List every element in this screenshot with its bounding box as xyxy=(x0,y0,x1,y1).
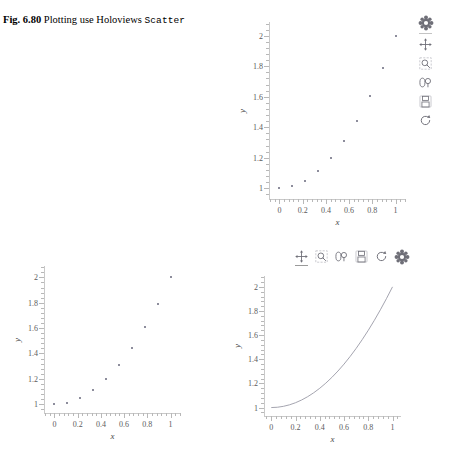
scatter-point xyxy=(92,389,94,391)
x-tick-minor xyxy=(133,413,134,416)
wheel-zoom-tool-icon[interactable] xyxy=(333,248,350,265)
x-tick-minor xyxy=(64,413,65,416)
x-tick-minor xyxy=(270,199,271,202)
x-tick-minor xyxy=(138,413,139,416)
y-tick-minor xyxy=(266,48,269,49)
scatter-point xyxy=(118,364,120,366)
x-tick-label: 0 xyxy=(277,206,281,215)
y-tick-minor xyxy=(266,72,269,73)
plot-scatter-top[interactable]: 11.21.41.61.8200.20.40.60.81xy xyxy=(237,14,412,229)
x-tick-minor xyxy=(400,199,401,202)
x-tick-major xyxy=(372,199,373,204)
x-tick-minor xyxy=(73,413,74,416)
pan-tool-icon[interactable] xyxy=(293,248,310,265)
save-tool-icon[interactable] xyxy=(417,93,434,110)
x-tick-minor xyxy=(317,199,318,202)
scatter-point xyxy=(343,140,345,142)
y-tick-minor xyxy=(41,318,44,319)
y-tick-major xyxy=(39,379,44,380)
y-tick-label: 1.6 xyxy=(18,324,38,333)
y-tick-major xyxy=(264,158,269,159)
x-tick-minor xyxy=(180,413,181,416)
x-tick-major xyxy=(54,413,55,418)
y-tick-minor xyxy=(266,24,269,25)
box-zoom-tool-icon[interactable] xyxy=(417,55,434,72)
wheel-zoom-tool-icon[interactable] xyxy=(417,74,434,91)
x-tick-minor xyxy=(331,199,332,202)
x-tick-minor xyxy=(293,199,294,202)
y-tick-minor xyxy=(266,146,269,147)
y-tick-label: 1.2 xyxy=(243,153,263,162)
y-tick-minor xyxy=(266,42,269,43)
x-tick-minor xyxy=(284,199,285,202)
x-tick-major xyxy=(147,413,148,418)
y-tick-minor xyxy=(266,139,269,140)
x-tick-major xyxy=(303,199,304,204)
y-tick-label: 1.8 xyxy=(243,62,263,71)
x-tick-minor xyxy=(391,199,392,202)
y-tick-minor xyxy=(41,338,44,339)
y-tick-label: 1 xyxy=(18,400,38,409)
y-tick-major xyxy=(39,303,44,304)
x-tick-major xyxy=(326,199,327,204)
bokeh-logo-icon[interactable] xyxy=(393,248,410,265)
reset-tool-icon[interactable] xyxy=(417,112,434,129)
y-tick-minor xyxy=(41,282,44,283)
x-tick-minor xyxy=(354,199,355,202)
y-tick-minor xyxy=(41,343,44,344)
plot-toolbar-vertical[interactable] xyxy=(417,14,434,129)
y-tick-minor xyxy=(41,288,44,289)
x-tick-minor xyxy=(166,413,167,416)
bokeh-logo-icon[interactable] xyxy=(417,14,434,31)
y-tick-label: 2 xyxy=(18,273,38,282)
x-tick-label: 0.6 xyxy=(344,206,354,215)
x-tick-minor xyxy=(382,199,383,202)
y-tick-minor xyxy=(266,30,269,31)
x-tick-minor xyxy=(50,413,51,416)
scatter-point xyxy=(157,303,159,305)
y-tick-minor xyxy=(41,298,44,299)
reset-tool-icon[interactable] xyxy=(373,248,390,265)
x-tick-minor xyxy=(119,413,120,416)
scatter-point xyxy=(291,185,293,187)
x-tick-label: 1 xyxy=(169,420,173,429)
x-tick-minor xyxy=(45,413,46,416)
y-tick-minor xyxy=(266,103,269,104)
y-tick-minor xyxy=(266,133,269,134)
x-tick-minor xyxy=(335,199,336,202)
x-tick-label: 0 xyxy=(52,420,56,429)
pan-tool-icon[interactable] xyxy=(417,36,434,53)
plot-scatter-bottom-left[interactable]: 11.21.41.61.8200.20.40.60.81xy xyxy=(12,258,187,443)
y-tick-minor xyxy=(266,170,269,171)
save-tool-icon[interactable] xyxy=(353,248,370,265)
y-tick-label: 1.4 xyxy=(243,123,263,132)
y-tick-minor xyxy=(266,85,269,86)
box-zoom-tool-icon[interactable] xyxy=(313,248,330,265)
y-tick-minor xyxy=(41,359,44,360)
y-tick-minor xyxy=(41,272,44,273)
scatter-point xyxy=(278,187,280,189)
x-tick-minor xyxy=(115,413,116,416)
x-tick-minor xyxy=(92,413,93,416)
x-axis-title: x xyxy=(111,431,115,441)
x-tick-minor xyxy=(152,413,153,416)
figure-number: Fig. 6.80 xyxy=(3,14,41,25)
scatter-point xyxy=(53,403,55,405)
y-tick-major xyxy=(264,66,269,67)
x-tick-minor xyxy=(275,199,276,202)
y-axis-title: y xyxy=(237,109,247,113)
scatter-point xyxy=(79,397,81,399)
x-axis-title: x xyxy=(336,217,340,227)
y-axis-title: y xyxy=(12,338,22,342)
y-tick-minor xyxy=(266,115,269,116)
y-tick-minor xyxy=(41,409,44,410)
toolbar-separator xyxy=(419,33,432,34)
plot-curve-bottom-right[interactable]: 11.21.41.61.8200.20.40.60.81xy xyxy=(232,268,407,446)
x-tick-label: 0.2 xyxy=(73,420,83,429)
x-tick-label: 0.6 xyxy=(119,420,129,429)
x-tick-minor xyxy=(157,413,158,416)
y-tick-minor xyxy=(41,369,44,370)
plot-toolbar-horizontal[interactable] xyxy=(293,248,410,265)
scatter-point xyxy=(317,170,319,172)
y-tick-minor xyxy=(41,323,44,324)
